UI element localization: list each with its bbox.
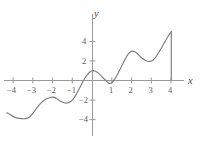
x-tick-label--3: −3 [27,86,36,95]
function-curve [7,32,171,119]
y-tick-label-4: 4 [82,37,86,46]
graph-figure: −4 −3 −2 −1 1 2 3 4 4 2 −2 −4 y x [0,0,208,143]
x-tick-label-4: 4 [168,86,172,95]
y-tick-label--4: −4 [79,115,88,124]
x-tick-label--4: −4 [7,86,16,95]
y-tick-label-2: 2 [82,57,86,66]
y-tick-label--2: −2 [79,96,88,105]
x-tick-label-2: 2 [129,86,133,95]
y-axis-label: y [94,9,99,20]
x-tick-label-1: 1 [109,86,113,95]
plot-canvas [0,0,208,143]
x-tick-label-3: 3 [149,86,153,95]
x-tick-label--1: −1 [67,86,76,95]
x-axis-label: x [188,76,193,87]
x-tick-label--2: −2 [47,86,56,95]
